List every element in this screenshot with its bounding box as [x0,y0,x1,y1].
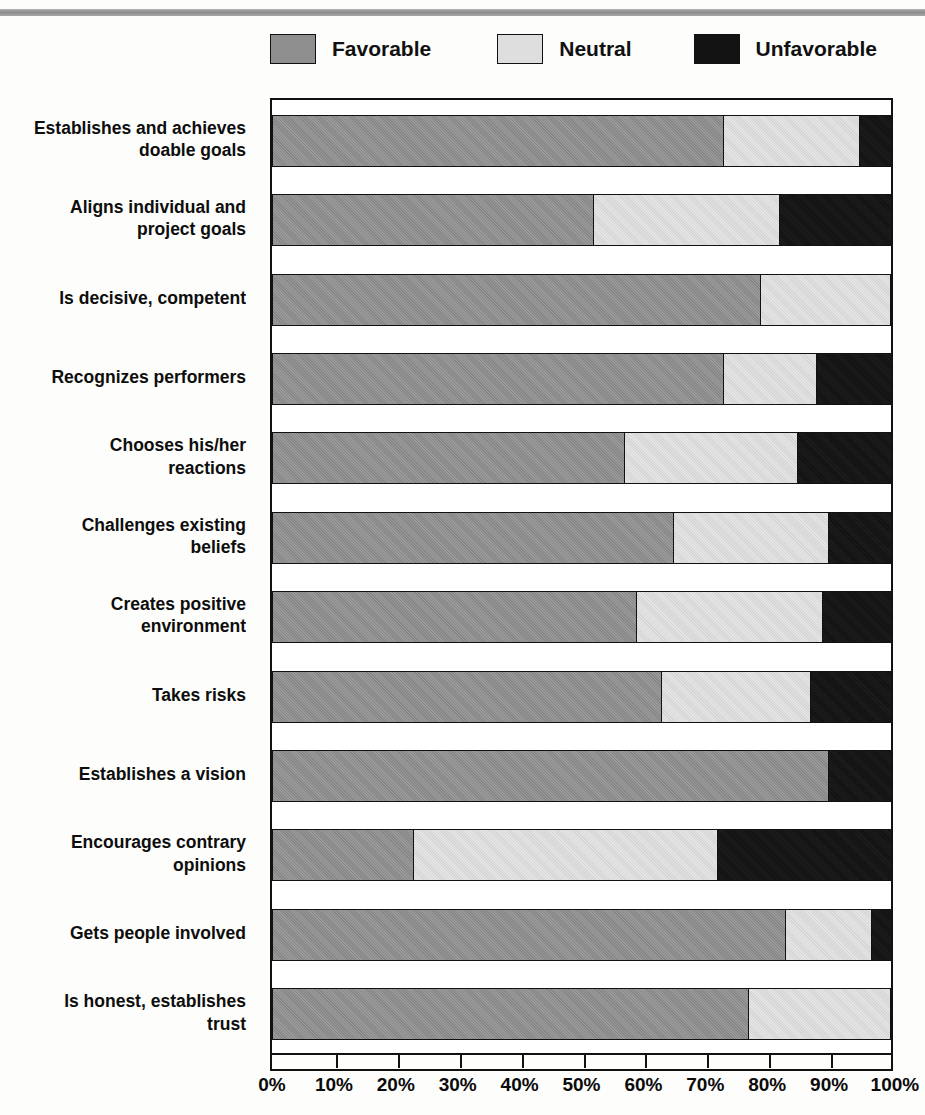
bar-segment-favorable [272,829,414,881]
bar-row [272,353,891,405]
category-label-line: trust [0,1013,246,1035]
x-axis-tick-label: 30% [439,1074,477,1096]
legend-item-favorable: Favorable [270,34,431,64]
category-label: Chooses his/herreactions [0,434,246,478]
bar-segment-favorable [272,194,594,246]
category-label-line: Encourages contrary [0,831,246,853]
x-axis-tick [769,1055,771,1068]
category-label-line: Is honest, establishes [0,990,246,1012]
bar-segment-unfavorable [811,671,891,723]
category-label: Aligns individual andproject goals [0,196,246,240]
bar-segment-unfavorable [817,353,891,405]
category-label-line: Takes risks [0,684,246,706]
bar-row [272,671,891,723]
bar-segment-neutral [625,432,798,484]
x-axis-tick [831,1055,833,1068]
bar-row [272,115,891,167]
bar-segment-neutral [749,988,891,1040]
bar-segment-neutral [724,115,860,167]
bar-segment-favorable [272,750,829,802]
bar-segment-unfavorable [860,115,891,167]
bar-segment-neutral [414,829,717,881]
bar-row [272,194,891,246]
bar-row [272,750,891,802]
header-rule [0,9,925,16]
x-axis-tick [522,1055,524,1068]
legend-item-neutral: Neutral [497,34,631,64]
category-label: Gets people involved [0,922,246,944]
category-label: Recognizes performers [0,366,246,388]
legend-swatch-neutral [497,34,543,64]
legend-label-favorable: Favorable [332,37,431,61]
bar-segment-neutral [637,591,823,643]
bar-segment-favorable [272,591,637,643]
category-label-line: opinions [0,854,246,876]
category-axis-labels: Establishes and achievesdoable goalsAlig… [0,98,258,1055]
category-label-line: Aligns individual and [0,196,246,218]
bar-segment-favorable [272,671,662,723]
category-label-line: environment [0,615,246,637]
bar-row [272,591,891,643]
x-axis-tick [707,1055,709,1068]
x-axis-tick-label: 20% [377,1074,415,1096]
bar-segment-favorable [272,115,724,167]
bar-segment-neutral [786,909,873,961]
bar-segment-unfavorable [798,432,891,484]
x-axis-tick [584,1055,586,1068]
x-axis-tick [336,1055,338,1068]
legend-item-unfavorable: Unfavorable [694,34,877,64]
category-label-line: Gets people involved [0,922,246,944]
x-axis-tick-label: 100% [871,1074,920,1096]
category-label-line: doable goals [0,139,246,161]
category-label-line: Recognizes performers [0,366,246,388]
x-axis [270,1055,893,1071]
category-label-line: Challenges existing [0,514,246,536]
category-label-line: beliefs [0,536,246,558]
bar-row [272,512,891,564]
category-label: Establishes and achievesdoable goals [0,117,246,161]
plot-area [270,98,893,1055]
x-axis-tick-label: 70% [686,1074,724,1096]
x-axis-tick-label: 10% [315,1074,353,1096]
legend-swatch-unfavorable [694,34,740,64]
bar-segment-favorable [272,432,625,484]
bar-segment-favorable [272,988,749,1040]
bar-row [272,432,891,484]
bar-segment-neutral [594,194,780,246]
bars-container [272,100,891,1053]
bar-row [272,988,891,1040]
category-label: Encourages contraryopinions [0,831,246,875]
bar-segment-neutral [724,353,817,405]
x-axis-tick-label: 0% [258,1074,285,1096]
category-label-line: Establishes a vision [0,763,246,785]
category-label: Challenges existingbeliefs [0,514,246,558]
bar-row [272,829,891,881]
x-axis-tick [460,1055,462,1068]
chart-legend: Favorable Neutral Unfavorable [270,32,910,66]
category-label-line: reactions [0,457,246,479]
category-label-line: Establishes and achieves [0,117,246,139]
category-label: Is decisive, competent [0,287,246,309]
category-label: Is honest, establishestrust [0,990,246,1034]
bar-segment-unfavorable [829,750,891,802]
x-axis-tick-label: 60% [624,1074,662,1096]
x-axis-tick-label: 90% [810,1074,848,1096]
x-axis-tick [645,1055,647,1068]
survey-stacked-bar-chart: Favorable Neutral Unfavorable Establishe… [0,0,925,1115]
legend-swatch-favorable [270,34,316,64]
bar-segment-unfavorable [823,591,891,643]
category-label-line: Chooses his/her [0,434,246,456]
x-axis-tick [398,1055,400,1068]
bar-segment-unfavorable [780,194,891,246]
legend-label-neutral: Neutral [559,37,631,61]
bar-segment-unfavorable [829,512,891,564]
category-label-line: project goals [0,218,246,240]
header-ghost-text [40,0,460,5]
bar-segment-favorable [272,512,674,564]
bar-segment-unfavorable [718,829,891,881]
bar-row [272,909,891,961]
x-axis-tick-label: 50% [562,1074,600,1096]
bar-segment-favorable [272,274,761,326]
x-axis-tick-label: 80% [748,1074,786,1096]
category-label-line: Is decisive, competent [0,287,246,309]
